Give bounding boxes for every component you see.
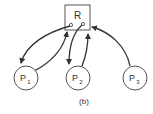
resource-allocation-diagram: R P 1 P 2 P 3 (b) bbox=[0, 0, 153, 114]
process-node-p3: P 3 bbox=[123, 66, 147, 90]
edge-r-to-p2-assignment bbox=[69, 25, 82, 64]
process-node-p1: P 1 bbox=[14, 66, 38, 90]
process-node-p2: P 2 bbox=[66, 66, 90, 90]
edge-p1-to-r-request bbox=[34, 32, 67, 71]
process-label: P bbox=[129, 73, 135, 83]
figure-caption: (b) bbox=[79, 97, 89, 106]
resource-label: R bbox=[74, 10, 81, 21]
edge-p2-to-r-request bbox=[82, 34, 88, 66]
process-label: P bbox=[72, 73, 78, 83]
process-label: P bbox=[20, 73, 26, 83]
edge-p3-to-r-request bbox=[92, 27, 130, 66]
